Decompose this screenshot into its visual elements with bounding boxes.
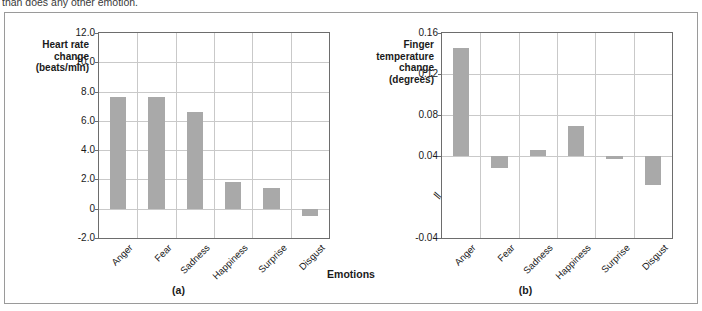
y-axis-title-a-line1: Heart rate (11, 39, 89, 51)
bar-disgust (302, 209, 318, 216)
y-tick-label: 6.0 (81, 116, 95, 126)
y-tick-label: 0.08 (419, 110, 438, 120)
bar-happiness (568, 126, 584, 156)
x-tick-label-text: Fear (152, 242, 174, 264)
y-tick-label: 0.12 (419, 69, 438, 79)
plot-area-a: 12.010.08.06.04.02.00-2.0 (98, 32, 330, 239)
y-tick-label: 10.0 (76, 57, 95, 67)
x-tick-label-anger: Anger (109, 242, 135, 268)
x-tick-label-text: Anger (109, 242, 135, 268)
bar-sadness (187, 112, 203, 209)
x-tick-label-fear: Fear (495, 242, 517, 264)
y-tick-label: -2.0 (78, 233, 95, 243)
y-tick-label: 0 (89, 204, 95, 214)
bar-anger (110, 97, 126, 208)
shared-x-axis-label: Emotions (5, 268, 697, 280)
x-tick-label-anger: Anger (452, 242, 478, 268)
bar-anger (453, 48, 469, 156)
panel-caption-b: (b) (352, 284, 699, 296)
panel-caption-a: (a) (5, 284, 352, 296)
chart-panel-a: Heart rate change (beats/min) 12.010.08.… (5, 13, 352, 305)
y-tick-label: 12.0 (76, 28, 95, 38)
bar-fear (491, 156, 507, 168)
x-tick-label-fear: Fear (152, 242, 174, 264)
y-tick-mark (438, 238, 442, 239)
x-tick-label-text: Fear (495, 242, 517, 264)
x-tick-label-text: Anger (452, 242, 478, 268)
y-axis-title-b-line2: temperature (354, 51, 434, 63)
bar-disgust (645, 156, 661, 185)
bar-surprise (606, 156, 622, 159)
y-axis-title-b-line1: Finger (354, 39, 434, 51)
bar-happiness (225, 182, 241, 208)
bars-b (442, 33, 672, 238)
bars-a (99, 33, 329, 238)
y-tick-label: -0.04 (415, 233, 438, 243)
figure-frame: Heart rate change (beats/min) 12.010.08.… (4, 12, 698, 304)
axis-break-icon: // (433, 192, 442, 199)
page-cutoff-text: than does any other emotion. (2, 0, 402, 8)
bar-fear (148, 97, 164, 208)
y-tick-mark (95, 238, 99, 239)
y-tick-label: 4.0 (81, 145, 95, 155)
chart-panel-b: Finger temperature change (degrees) 0.16… (352, 13, 699, 305)
y-tick-label: 0.16 (419, 28, 438, 38)
y-tick-label: 0.04 (419, 151, 438, 161)
y-tick-label: 2.0 (81, 174, 95, 184)
y-tick-label: 8.0 (81, 87, 95, 97)
bar-surprise (263, 188, 279, 209)
bar-sadness (530, 150, 546, 156)
plot-area-b: 0.160.120.080.04-0.04 // (441, 32, 673, 239)
